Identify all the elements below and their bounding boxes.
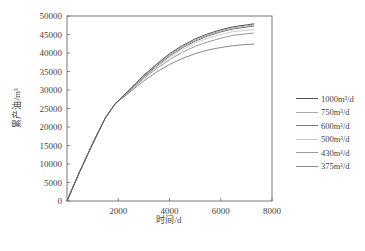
legend-label: 750m³/d — [321, 107, 350, 117]
svg-text:45000: 45000 — [40, 30, 63, 40]
svg-text:2000: 2000 — [109, 206, 128, 216]
legend-item: 430m³/d — [296, 146, 354, 160]
svg-text:0: 0 — [58, 196, 63, 206]
series-line — [67, 24, 254, 201]
legend-label: 600m³/d — [321, 121, 350, 131]
legend-swatch — [296, 112, 318, 113]
svg-text:20000: 20000 — [40, 122, 63, 132]
svg-text:8000: 8000 — [263, 206, 282, 216]
legend-label: 375m³/d — [321, 161, 350, 171]
legend-item: 1000m³/d — [296, 92, 354, 106]
series-line — [67, 26, 254, 201]
legend-swatch — [296, 98, 318, 99]
legend-label: 430m³/d — [321, 148, 350, 158]
legend-swatch — [296, 125, 318, 126]
legend-item: 750m³/d — [296, 106, 354, 120]
legend: 1000m³/d 750m³/d 600m³/d 500m³/d 430m³/d… — [296, 92, 354, 173]
series-line — [67, 30, 254, 201]
svg-text:50000: 50000 — [40, 11, 63, 21]
data-series — [67, 24, 254, 201]
y-axis-label: 累产油/m³ — [11, 88, 22, 128]
svg-text:6000: 6000 — [212, 206, 231, 216]
svg-text:5000: 5000 — [44, 178, 63, 188]
legend-swatch — [296, 152, 318, 153]
svg-text:15000: 15000 — [40, 141, 63, 151]
svg-text:35000: 35000 — [40, 67, 63, 77]
series-line — [67, 33, 254, 201]
svg-text:40000: 40000 — [40, 48, 63, 58]
legend-swatch — [296, 139, 318, 140]
svg-text:25000: 25000 — [40, 104, 63, 114]
legend-swatch — [296, 166, 318, 167]
plot-frame — [67, 16, 272, 201]
series-line — [67, 25, 254, 201]
series-line — [67, 44, 254, 201]
legend-item: 375m³/d — [296, 160, 354, 174]
legend-item: 600m³/d — [296, 119, 354, 133]
legend-item: 500m³/d — [296, 133, 354, 147]
svg-text:30000: 30000 — [40, 85, 63, 95]
y-axis-ticks: 0500010000150002000025000300003500040000… — [40, 11, 71, 206]
legend-label: 1000m³/d — [321, 94, 354, 104]
legend-label: 500m³/d — [321, 134, 350, 144]
x-axis-label: 时间/d — [156, 214, 182, 225]
svg-text:10000: 10000 — [40, 159, 63, 169]
